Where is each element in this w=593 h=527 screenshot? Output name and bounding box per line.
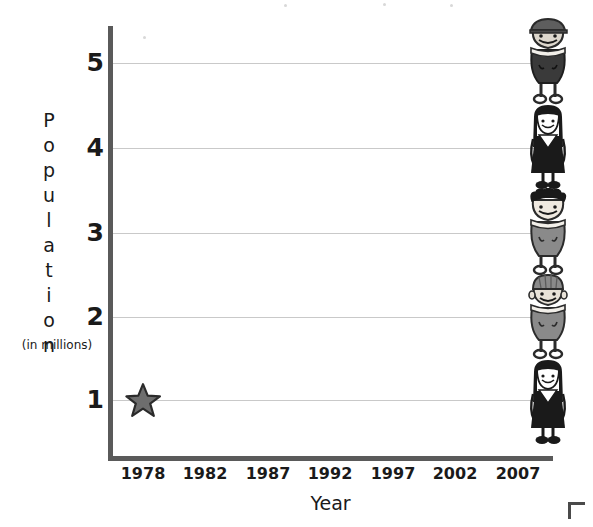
y-tick-label-3: 3 (76, 220, 104, 245)
y-axis-line (108, 26, 113, 461)
y-axis-subtitle: (in millions) (16, 338, 98, 352)
scan-speck (284, 4, 287, 7)
x-tick-label-1982: 1982 (174, 464, 236, 483)
scan-corner-mark (568, 502, 585, 519)
x-tick-label-1992: 1992 (299, 464, 361, 483)
gridline-3 (113, 233, 553, 234)
scan-speck (143, 36, 146, 39)
y-tick-label-4: 4 (76, 135, 104, 160)
x-tick-label-1987: 1987 (237, 464, 299, 483)
x-tick-label-1997: 1997 (362, 464, 424, 483)
figure-person-with-cap (519, 17, 577, 109)
y-title-letter: P (34, 108, 64, 133)
y-title-letter: u (34, 183, 64, 208)
gridline-2 (113, 317, 553, 318)
y-tick-label-2: 2 (76, 304, 104, 329)
gridline-4 (113, 148, 553, 149)
x-axis-title: Year (108, 492, 553, 514)
star-icon (125, 382, 161, 418)
y-axis-title: P o p u l a t i o n (34, 108, 64, 358)
y-title-letter: p (34, 158, 64, 183)
y-title-letter: o (34, 133, 64, 158)
figure-woman-long-hair-black-dress (519, 358, 577, 450)
x-tick-label-2007: 2007 (487, 464, 549, 483)
x-tick-label-1978: 1978 (112, 464, 174, 483)
y-title-letter: a (34, 233, 64, 258)
y-tick-label-1: 1 (76, 387, 104, 412)
y-title-letter: t (34, 258, 64, 283)
figure-woman-long-hair-black-dress (519, 103, 577, 195)
x-tick-label-2002: 2002 (424, 464, 486, 483)
gridline-5 (113, 63, 553, 64)
y-title-letter: o (34, 308, 64, 333)
y-tick-label-5: 5 (76, 50, 104, 75)
population-chart: P o p u l a t i o n (in millions) 5 4 3 … (0, 0, 593, 527)
y-title-letter: i (34, 283, 64, 308)
x-axis-line (108, 456, 553, 461)
scan-speck (383, 3, 386, 6)
figure-child-beanie-overalls (519, 272, 577, 364)
gridline-1 (113, 400, 553, 401)
data-point-star-1978[interactable] (125, 382, 161, 418)
figure-boy-curly-hair-overalls (519, 188, 577, 280)
scan-speck (450, 4, 453, 7)
y-title-letter: l (34, 208, 64, 233)
